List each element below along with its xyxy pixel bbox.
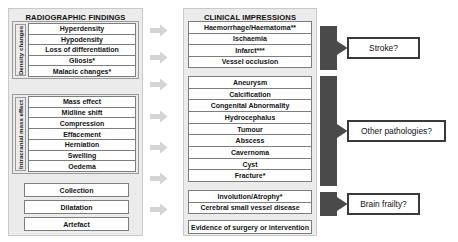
arrow-right-icon — [150, 110, 168, 123]
outcome-box-brain-frailty[interactable]: Brain frailty? — [347, 193, 420, 215]
arrow-right-icon — [150, 141, 168, 154]
arrow-right-icon — [150, 203, 168, 216]
list-item-dilatation[interactable]: Dilatation — [24, 200, 129, 214]
arrow-right-icon — [150, 51, 168, 64]
group-label-density-changes: Density changes — [15, 24, 26, 76]
item-list-frailty-impressions: Involution/Atrophy* Cerebral small vesse… — [188, 190, 312, 214]
item-list-vascular-impressions: Haemorrhage/Haematoma** Ischaemia Infarc… — [188, 21, 312, 68]
list-item-artefact[interactable]: Artefact — [24, 217, 129, 231]
item-list-other-impressions: Aneurysm Calcification Congenital Abnorm… — [188, 76, 312, 182]
outcome-box-stroke[interactable]: Stroke? — [347, 37, 420, 59]
group-label-intracranial-mass-effect-text: Intracranial mass effect — [17, 99, 24, 168]
connector-stroke — [320, 26, 348, 70]
list-item[interactable]: Malacic changes* — [28, 65, 136, 77]
item-list-intracranial-mass-effect: Mass effect Midline shift Compression Ef… — [28, 96, 136, 172]
arrow-right-icon — [150, 24, 168, 37]
flow-diagram: RADIOGRAPHIC FINDINGS Density changes Hy… — [0, 0, 458, 242]
list-item-evidence-of-surgery[interactable]: Evidence of surgery or intervention — [188, 220, 312, 234]
item-list-density-changes: Hyperdensity Hypodensity Loss of differe… — [28, 23, 136, 77]
group-label-intracranial-mass-effect: Intracranial mass effect — [15, 97, 26, 171]
connector-brain-frailty — [320, 192, 348, 216]
group-label-density-changes-text: Density changes — [17, 25, 24, 74]
list-item[interactable]: Vessel occlusion — [188, 56, 312, 69]
list-item[interactable]: Oedema — [28, 160, 136, 172]
list-item[interactable]: Fracture* — [188, 169, 312, 182]
connector-other-pathologies — [320, 76, 348, 186]
arrow-right-icon — [150, 78, 168, 91]
list-item-collection[interactable]: Collection — [24, 183, 129, 197]
arrow-right-icon — [150, 172, 168, 185]
outcome-box-other-pathologies[interactable]: Other pathologies? — [347, 120, 446, 142]
list-item[interactable]: Cerebral small vessel disease — [188, 202, 312, 215]
